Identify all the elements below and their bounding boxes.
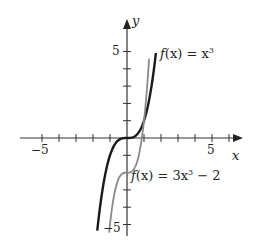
x-axis-arrow-icon — [233, 134, 243, 142]
x-tick-label-neg5: −5 — [31, 144, 49, 156]
y-axis-arrow-icon — [123, 19, 131, 29]
x-axis-label: x — [232, 149, 239, 162]
y-tick-label-neg5: −5 — [103, 222, 121, 234]
y-tick-label-5: 5 — [112, 45, 120, 57]
curve-label-3x-cubed-minus-2: f(x) = 3x3 − 2 — [131, 169, 221, 182]
x-tick-label-5: 5 — [207, 144, 215, 156]
y-axis-label: y — [132, 14, 139, 27]
plot-area — [0, 0, 256, 251]
curve-label-x-cubed: f(x) = x3 — [160, 47, 214, 60]
chart: y x 5 −5 −5 5 f(x) = x3 f(x) = 3x3 − 2 — [0, 0, 256, 251]
